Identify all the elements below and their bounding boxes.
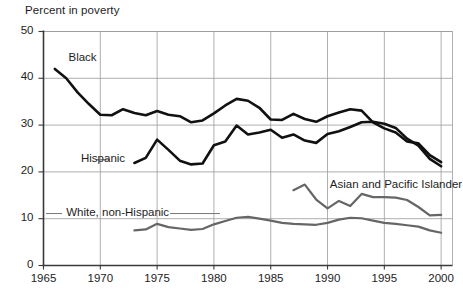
x-tick-label: 1985 xyxy=(249,272,293,284)
x-tick-label: 1980 xyxy=(192,272,236,284)
x-tick-label: 2000 xyxy=(419,272,463,284)
series-line-hispanic xyxy=(134,122,441,166)
y-tick-label: 20 xyxy=(8,164,34,176)
x-tick-label: 1975 xyxy=(135,272,179,284)
y-tick-label: 40 xyxy=(8,70,34,82)
x-tick-label: 1970 xyxy=(78,272,122,284)
series-label-black: Black xyxy=(68,51,96,63)
y-tick-label: 10 xyxy=(8,211,34,223)
x-tick-label: 1990 xyxy=(306,272,350,284)
y-tick-label: 0 xyxy=(8,258,34,270)
x-tick-label: 1995 xyxy=(362,272,406,284)
x-tick-label: 1965 xyxy=(22,272,66,284)
series-label-asian-and-pacific-islander: Asian and Pacific Islander xyxy=(330,178,462,190)
y-tick-label: 30 xyxy=(8,117,34,129)
series-line-black xyxy=(55,69,441,162)
series-label-hispanic: Hispanic xyxy=(81,152,125,164)
series-label-white-non-hispanic: White, non-Hispanic xyxy=(66,206,169,218)
y-tick-label: 50 xyxy=(8,24,34,36)
series-line-white-non-hispanic xyxy=(134,217,441,233)
